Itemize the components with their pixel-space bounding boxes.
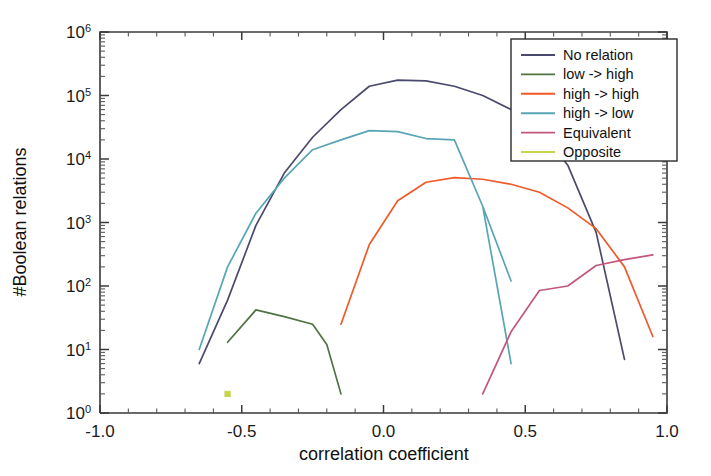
series-marker xyxy=(225,391,230,396)
chart-figure: 100101102103104105106 -1.0-0.50.00.51.0 … xyxy=(0,0,711,476)
y-tick-exponent: 0 xyxy=(85,403,91,415)
x-tick-label: 0.5 xyxy=(513,422,537,441)
y-tick-exponent: 6 xyxy=(85,22,91,34)
x-axis-title: correlation coefficient xyxy=(299,444,469,464)
legend-label: low -> high xyxy=(563,66,634,82)
y-tick-exponent: 3 xyxy=(85,213,91,225)
x-tick-label: 0.0 xyxy=(372,422,396,441)
legend-label: high -> low xyxy=(563,105,634,121)
y-tick-exponent: 4 xyxy=(85,149,91,161)
x-tick-label: -0.5 xyxy=(227,422,256,441)
legend-label: No relation xyxy=(563,47,633,63)
legend-label: Equivalent xyxy=(563,125,631,141)
y-axis-title: #Boolean relations xyxy=(10,147,30,296)
y-tick-exponent: 1 xyxy=(85,340,91,352)
legend-label: Opposite xyxy=(563,144,621,160)
x-tick-label: 1.0 xyxy=(655,422,679,441)
y-tick-exponent: 5 xyxy=(85,86,91,98)
y-tick-exponent: 2 xyxy=(85,276,91,288)
x-tick-label: -1.0 xyxy=(85,422,114,441)
legend-label: high -> high xyxy=(563,86,639,102)
chart-legend: No relationlow -> highhigh -> highhigh -… xyxy=(511,39,677,161)
